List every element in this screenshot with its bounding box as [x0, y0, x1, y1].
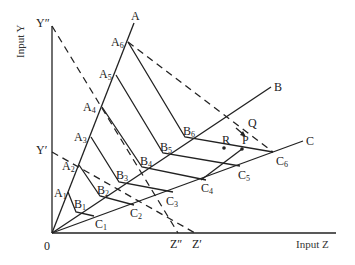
isoquant-diagram — [0, 0, 355, 265]
label-a1: A1 — [54, 187, 67, 201]
label-p: P — [242, 134, 249, 146]
label-b6: B6 — [183, 125, 195, 139]
label-a5: A5 — [99, 68, 112, 82]
x-axis-title: Input Z — [296, 238, 329, 250]
label-ray-a: A — [131, 10, 140, 22]
origin-label: 0 — [44, 240, 50, 252]
label-a6: A6 — [111, 36, 124, 50]
label-ray-c: C — [306, 135, 314, 147]
label-b2: B2 — [97, 184, 109, 198]
label-a2: A2 — [62, 160, 75, 174]
label-r: R — [222, 134, 230, 146]
label-z-prime: Z′ — [192, 238, 202, 250]
label-a3: A3 — [74, 131, 87, 145]
isocost-a6-c6 — [128, 42, 273, 152]
label-a4: A4 — [83, 101, 96, 115]
label-c1: C1 — [95, 218, 107, 232]
label-c5: C5 — [238, 169, 250, 183]
y-axis-title: Input Y — [14, 24, 26, 58]
expansion-segment — [201, 149, 242, 180]
label-y-double-prime: Y″ — [36, 17, 50, 29]
label-c3: C3 — [166, 195, 178, 209]
isocost-y-double-prime — [52, 26, 178, 233]
label-c6: C6 — [276, 155, 288, 169]
label-b3: B3 — [116, 169, 128, 183]
label-z-double-prime: Z″ — [170, 238, 182, 250]
label-b4: B4 — [140, 155, 152, 169]
label-y-prime: Y′ — [36, 144, 47, 156]
label-b5: B5 — [160, 141, 172, 155]
label-c4: C4 — [201, 182, 213, 196]
label-ray-b: B — [274, 81, 282, 93]
point-p — [240, 147, 244, 151]
label-q: Q — [248, 117, 257, 129]
label-c2: C2 — [130, 207, 142, 221]
label-b1: B1 — [74, 198, 86, 212]
